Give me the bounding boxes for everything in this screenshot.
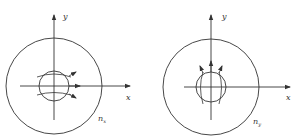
right-panel: y x ny	[163, 12, 291, 135]
arrow-right	[219, 66, 222, 73]
y-axis-label: y	[62, 12, 68, 21]
arrow-upper	[69, 72, 76, 76]
arrow-lower	[69, 94, 76, 98]
y-axis-label: y	[221, 12, 227, 21]
region-label-nx: nx	[98, 114, 106, 124]
diagram-canvas: y x nx y x ny	[0, 0, 296, 140]
arrow-left	[200, 66, 203, 73]
x-axis-label: x	[126, 93, 131, 102]
left-panel: y x nx	[6, 12, 131, 134]
x-axis-label: x	[286, 93, 291, 102]
region-label-ny: ny	[253, 117, 261, 128]
